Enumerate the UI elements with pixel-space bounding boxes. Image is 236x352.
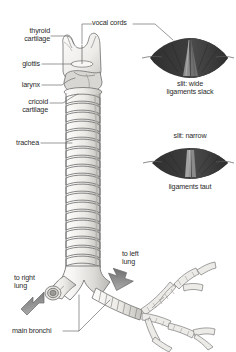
bronchial-tree — [141, 262, 216, 352]
respiratory-tract-diagram — [0, 0, 236, 352]
inset-vocal-cords-wide — [142, 38, 234, 78]
leader-vocal-cords-to-inset — [133, 24, 173, 40]
leader-main-bronchi — [63, 295, 79, 331]
inset-vocal-cords-narrow — [143, 148, 234, 179]
to-right-lung-arrow — [21, 292, 44, 315]
label-to-left-lung: to left lung — [122, 250, 139, 267]
larynx-group — [63, 33, 102, 96]
label-trachea: trachea — [2, 139, 39, 147]
leader-main-bronchi-2 — [79, 300, 110, 331]
inset-narrow-caption-above: slit: narrow — [143, 132, 236, 140]
trachea-group — [66, 94, 100, 270]
label-larynx: larynx — [2, 81, 40, 89]
inset-wide-caption: slit: wide ligaments slack — [143, 80, 236, 97]
bronchi-group — [45, 262, 216, 352]
label-cricoid-cartilage: cricoid cartilage — [2, 98, 48, 115]
label-thyroid-cartilage: thyroid cartilage — [2, 27, 50, 44]
inset-narrow-caption-below: ligaments taut — [143, 183, 236, 191]
label-glottis: glottis — [2, 60, 40, 68]
left-main-bronchus — [92, 288, 142, 320]
label-to-right-lung: to right lung — [14, 274, 35, 291]
label-vocal-cords: vocal cords — [92, 19, 127, 27]
label-main-bronchi: main bronchi — [12, 327, 51, 335]
